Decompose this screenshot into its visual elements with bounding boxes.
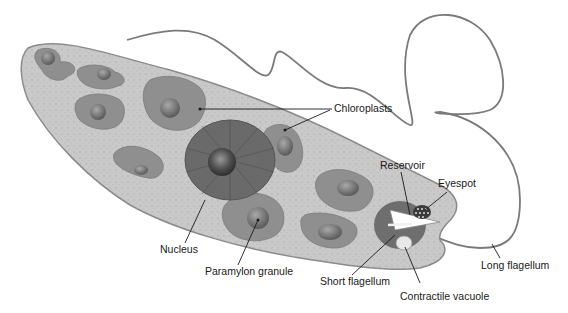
label-reservoir: Reservoir [380,160,425,171]
short-flagellum [388,224,412,225]
label-short-flagellum: Short flagellum [320,276,390,287]
label-contractile-vacuole: Contractile vacuole [400,291,489,302]
label-eyespot: Eyespot [438,178,476,189]
label-chloroplasts: Chloroplasts [334,103,392,114]
euglena-diagram: Chloroplasts Reservoir Eyespot Nucleus P… [0,0,568,313]
nucleus [185,120,275,200]
label-nucleus: Nucleus [160,244,198,255]
label-paramylon-granule: Paramylon granule [205,266,293,277]
label-long-flagellum: Long flagellum [481,260,549,271]
